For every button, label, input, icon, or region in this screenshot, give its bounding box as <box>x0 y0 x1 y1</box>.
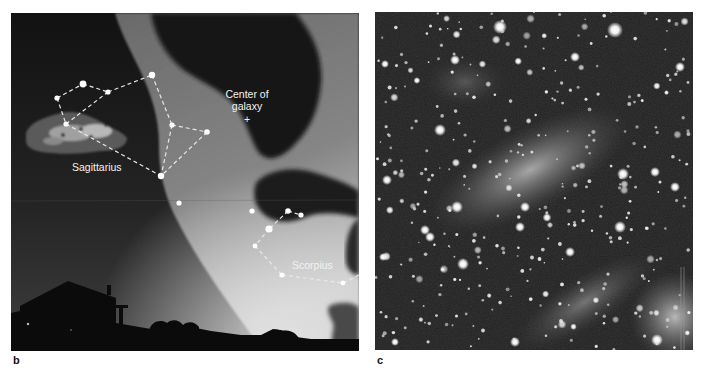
star-field-photo <box>375 12 693 350</box>
sky-illustration-panel: Center of galaxy + Sagittarius Scorpius <box>11 13 359 351</box>
house-window-light <box>70 329 72 331</box>
panel-label-c: c <box>377 354 383 366</box>
bushes <box>149 320 199 335</box>
center-of-galaxy-label-line2: galaxy <box>232 100 263 112</box>
sky-illustration: Center of galaxy + Sagittarius Scorpius <box>11 13 359 351</box>
center-of-galaxy-label-line1: Center of <box>225 88 268 100</box>
house-window-light <box>27 323 29 325</box>
sagittarius-label: Sagittarius <box>72 161 122 173</box>
isolated-star <box>176 200 181 205</box>
chimney <box>107 285 111 295</box>
scorpius-label: Scorpius <box>292 259 333 271</box>
galactic-center-marker: + <box>244 113 250 125</box>
star-field-photo-panel <box>375 12 693 350</box>
panel-label-b: b <box>13 354 20 366</box>
